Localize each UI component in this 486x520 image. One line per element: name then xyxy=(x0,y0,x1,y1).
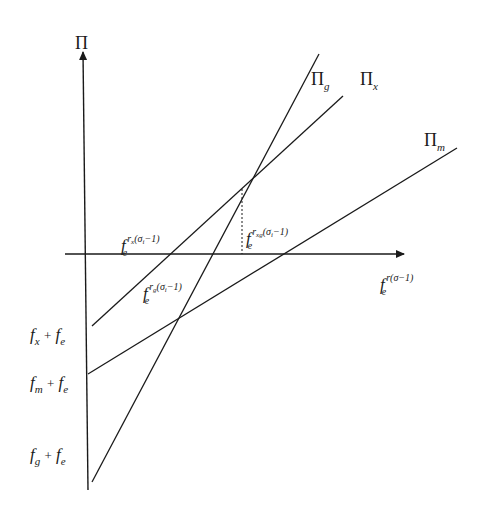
y-axis-label: Π xyxy=(75,34,88,52)
x-axis-label-sup: r(σ−1) xyxy=(386,272,413,283)
fx-fe-intercept-label: fx + fe xyxy=(30,326,65,343)
fe-rxg-annotation: ferxg(σi−1) xyxy=(246,230,288,247)
fe-rg-annotation: ferg(σi−1) xyxy=(143,285,182,302)
pi-m-line xyxy=(88,148,457,374)
pi-x-label-base: Π xyxy=(360,69,373,89)
pi-g-label-base: Π xyxy=(311,69,324,89)
x-axis-label-sub: e xyxy=(382,286,386,297)
pi-g-label-sub: g xyxy=(324,80,330,92)
pi-m-label-sub: m xyxy=(437,141,445,153)
pi-g-label: Πg xyxy=(311,70,330,88)
fm-fe-intercept-label: fm + fe xyxy=(30,374,68,391)
pi-x-line xyxy=(92,96,343,326)
y-axis xyxy=(83,52,88,490)
pi-m-label: Πm xyxy=(424,131,445,149)
diagram-canvas xyxy=(0,0,486,520)
fe-rx-annotation: ferx(σi−1) xyxy=(121,237,160,254)
x-axis-label: fer(σ−1) xyxy=(380,276,413,293)
pi-m-label-base: Π xyxy=(424,130,437,150)
pi-x-label-sub: x xyxy=(373,80,378,92)
fg-fe-intercept-label: fg + fe xyxy=(30,446,66,463)
pi-x-label: Πx xyxy=(360,70,378,88)
pi-g-line xyxy=(92,54,319,482)
